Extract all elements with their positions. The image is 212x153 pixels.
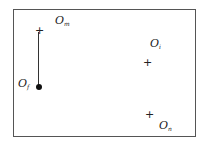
label-oi: Oi: [150, 38, 161, 50]
label-of: Of: [18, 78, 29, 90]
label-on: On: [159, 120, 172, 132]
point-on-marker: +: [145, 109, 154, 120]
connector-line: [38, 32, 39, 86]
label-om: Om: [55, 15, 70, 27]
point-oi-marker: +: [143, 57, 152, 68]
point-of-dot: [36, 84, 42, 90]
point-om-marker: +: [35, 25, 44, 36]
